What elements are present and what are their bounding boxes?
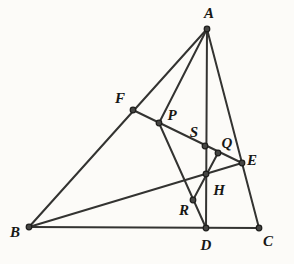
triangle-diagram-svg: ABCDEFPSQHR <box>0 0 294 264</box>
point-label-F: F <box>114 90 125 106</box>
point-dot-P <box>156 120 162 126</box>
point-dot-Q <box>215 150 221 156</box>
point-dot-H <box>203 171 209 177</box>
point-dot-D <box>203 225 209 231</box>
point-dot-E <box>239 160 245 166</box>
point-dot-F <box>130 107 136 113</box>
point-label-Q: Q <box>222 135 233 151</box>
point-dot-B <box>26 224 32 230</box>
diagram-background <box>0 0 294 264</box>
point-label-A: A <box>203 5 214 21</box>
point-label-S: S <box>190 124 198 140</box>
point-label-C: C <box>263 233 274 249</box>
point-dot-S <box>202 143 208 149</box>
point-dot-R <box>190 197 196 203</box>
point-label-R: R <box>178 202 189 218</box>
point-dot-C <box>256 225 262 231</box>
point-label-H: H <box>212 182 226 198</box>
point-dot-A <box>204 26 210 32</box>
point-label-D: D <box>200 237 212 253</box>
point-label-B: B <box>9 224 20 240</box>
segment-BC <box>29 227 259 228</box>
point-label-P: P <box>167 107 177 123</box>
point-label-E: E <box>246 152 257 168</box>
geometry-figure: ABCDEFPSQHR <box>0 0 294 264</box>
segment-AD <box>206 29 207 228</box>
